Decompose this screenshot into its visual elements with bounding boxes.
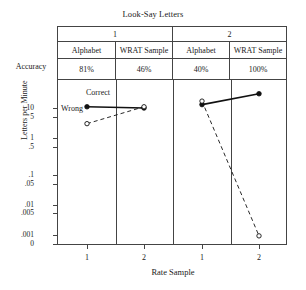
series-plot <box>58 80 288 245</box>
plot-area: Letters per Minute 1051.5.1.05.01.005.00… <box>57 80 287 245</box>
y-tick-label: .05 <box>0 180 34 188</box>
celeration-chart-figure: Look-Say Letters Accuracy 1 2 Alphabet W… <box>0 0 306 290</box>
annotation-wrong: Wrong <box>61 104 83 113</box>
y-tick-label: .001 <box>0 231 34 239</box>
x-tick-label: 1 <box>77 253 97 262</box>
header-table: 1 2 Alphabet WRAT Sample Alphabet WRAT S… <box>57 26 287 80</box>
y-tick-label: 5 <box>0 113 34 121</box>
y-tick-label: .5 <box>0 143 34 151</box>
series-line-wrong <box>202 101 259 236</box>
accuracy-value-alphabet-2: 40% <box>172 59 229 80</box>
header-row-columns: Alphabet WRAT Sample Alphabet WRAT Sampl… <box>58 42 286 59</box>
y-tick-label: .005 <box>0 209 34 217</box>
series-line-correct <box>87 107 144 108</box>
group-header-2: 2 <box>172 27 286 41</box>
x-tick-label: 2 <box>134 253 154 262</box>
x-axis-title: Rate Sample <box>58 267 288 277</box>
series-line-correct <box>202 94 259 105</box>
y-tick-label: .1 <box>0 171 34 179</box>
data-point-wrong <box>142 105 146 109</box>
series-line-wrong <box>87 107 144 124</box>
accuracy-value-wrat-1: 46% <box>115 59 172 80</box>
column-header-wrat-2: WRAT Sample <box>229 42 286 58</box>
header-row-accuracy: 81% 46% 40% 100% <box>58 59 286 80</box>
column-header-alphabet-1: Alphabet <box>58 42 115 58</box>
column-header-wrat-1: WRAT Sample <box>115 42 172 58</box>
data-point-wrong <box>200 99 204 103</box>
data-point-wrong <box>85 121 89 125</box>
x-tick-label: 2 <box>249 253 269 262</box>
header-row-groups: 1 2 <box>58 27 286 42</box>
data-point-correct <box>257 91 262 96</box>
y-tick-label: 0 <box>0 240 34 248</box>
accuracy-value-alphabet-1: 81% <box>58 59 115 80</box>
accuracy-value-wrat-2: 100% <box>229 59 286 80</box>
data-point-wrong <box>257 234 261 238</box>
data-point-correct <box>85 104 90 109</box>
chart-title: Look-Say Letters <box>0 9 306 19</box>
row-label-accuracy: Accuracy <box>6 62 56 71</box>
y-tick-label: 10 <box>0 104 34 112</box>
y-tick-label: 1 <box>0 134 34 142</box>
x-tick-label: 1 <box>192 253 212 262</box>
column-header-alphabet-2: Alphabet <box>172 42 229 58</box>
group-header-1: 1 <box>58 27 172 41</box>
annotation-correct: Correct <box>86 88 110 97</box>
